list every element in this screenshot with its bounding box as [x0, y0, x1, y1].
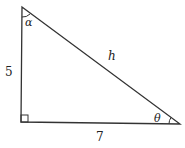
right-triangle-diagram: α θ h 5 7 [0, 0, 185, 148]
label-vertical-leg: 5 [5, 65, 13, 79]
label-alpha: α [25, 16, 33, 29]
label-horizontal-leg: 7 [96, 130, 104, 144]
triangle [21, 7, 180, 124]
theta-angle-arc [169, 118, 171, 124]
right-angle-marker [21, 115, 28, 122]
label-theta: θ [154, 112, 161, 125]
label-hypotenuse: h [108, 49, 116, 63]
